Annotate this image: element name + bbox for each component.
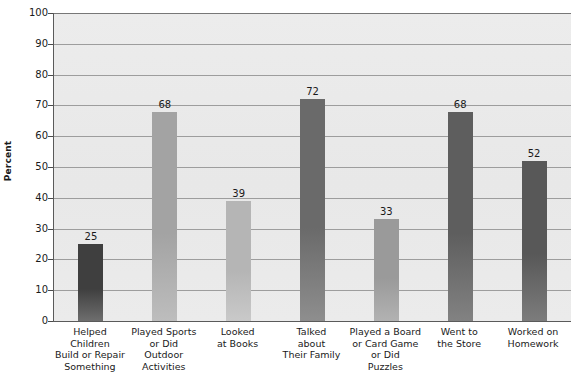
- x-axis-label-line: Homework: [496, 338, 570, 350]
- y-axis-title-text: Percent: [3, 140, 13, 181]
- x-axis-tick-labels: HelpedChildrenBuild or RepairSomethingPl…: [53, 326, 570, 381]
- x-axis-label-line: Their Family: [275, 349, 349, 361]
- bar-value-label: 68: [158, 100, 171, 110]
- y-axis-tick-label: 40: [16, 193, 48, 203]
- bar: 25: [78, 244, 103, 321]
- y-axis-tick-label: 20: [16, 254, 48, 264]
- x-axis-tick-label: Played a Boardor Card Gameor DidPuzzles: [348, 326, 422, 372]
- x-axis-label-line: Children: [53, 338, 127, 350]
- bar: 72: [300, 99, 325, 321]
- x-axis-label-line: Talked: [275, 326, 349, 338]
- gridline: [54, 13, 571, 14]
- y-axis-tick-label: 50: [16, 162, 48, 172]
- x-axis-tick-label: HelpedChildrenBuild or RepairSomething: [53, 326, 127, 372]
- bar: 68: [152, 112, 177, 321]
- bar-fill: [78, 244, 103, 321]
- x-axis-label-line: or Card Game: [348, 338, 422, 350]
- y-axis-tick-label: 10: [16, 285, 48, 295]
- bar: 33: [374, 219, 399, 321]
- x-axis-label-line: or Did: [127, 338, 201, 350]
- y-axis-tick-label: 30: [16, 224, 48, 234]
- bar-fill: [448, 112, 473, 321]
- x-axis-label-line: the Store: [422, 338, 496, 350]
- bar-chart: Percent 0102030405060708090100 256839723…: [0, 0, 583, 381]
- y-axis-tick-labels: 0102030405060708090100: [16, 0, 48, 381]
- y-axis-tick-label: 70: [16, 100, 48, 110]
- x-axis-label-line: Puzzles: [348, 361, 422, 373]
- bar-value-label: 25: [85, 232, 98, 242]
- y-axis-title: Percent: [0, 0, 16, 321]
- x-axis-label-line: about: [275, 338, 349, 350]
- y-axis-tick-label: 80: [16, 70, 48, 80]
- x-axis-label-line: Played a Board: [348, 326, 422, 338]
- bar: 52: [522, 161, 547, 321]
- x-axis-tick-label: Played Sportsor DidOutdoorActivities: [127, 326, 201, 372]
- bar-value-label: 33: [380, 207, 393, 217]
- y-axis-tick-label: 90: [16, 39, 48, 49]
- y-axis-tick-label: 0: [16, 316, 48, 326]
- x-axis-label-line: Went to: [422, 326, 496, 338]
- x-axis-tick-label: Lookedat Books: [201, 326, 275, 349]
- bar-value-label: 52: [528, 149, 541, 159]
- x-axis-label-line: Looked: [201, 326, 275, 338]
- bar-value-label: 72: [306, 87, 319, 97]
- bar-value-label: 39: [232, 189, 245, 199]
- x-axis-label-line: at Books: [201, 338, 275, 350]
- x-axis-label-line: Helped: [53, 326, 127, 338]
- bar-fill: [522, 161, 547, 321]
- y-axis-tick-label: 100: [16, 8, 48, 18]
- bar-fill: [374, 219, 399, 321]
- x-axis-label-line: Played Sports: [127, 326, 201, 338]
- bar-value-label: 68: [454, 100, 467, 110]
- x-axis-tick-label: Went tothe Store: [422, 326, 496, 349]
- bar-fill: [152, 112, 177, 321]
- bar: 68: [448, 112, 473, 321]
- x-axis-tick-label: TalkedaboutTheir Family: [275, 326, 349, 361]
- x-axis-label-line: or Did: [348, 349, 422, 361]
- gridline: [54, 75, 571, 76]
- gridline: [54, 44, 571, 45]
- x-axis-label-line: Activities: [127, 361, 201, 373]
- bar-fill: [300, 99, 325, 321]
- bar-fill: [226, 201, 251, 321]
- x-axis-tick-label: Worked onHomework: [496, 326, 570, 349]
- y-axis-tick-label: 60: [16, 131, 48, 141]
- x-axis-label-line: Something: [53, 361, 127, 373]
- bar: 39: [226, 201, 251, 321]
- x-axis-label-line: Worked on: [496, 326, 570, 338]
- plot-area: 25683972336852: [53, 13, 571, 322]
- x-axis-label-line: Outdoor: [127, 349, 201, 361]
- x-axis-label-line: Build or Repair: [53, 349, 127, 361]
